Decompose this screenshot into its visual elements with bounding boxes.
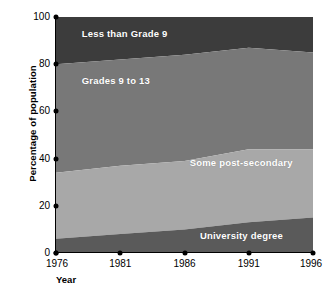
x-tick-label-1991: 1991 (238, 258, 260, 269)
x-tick-dot-1996 (311, 251, 316, 256)
x-tick-label-1981: 1981 (109, 258, 131, 269)
y-tick-label-80: 80 (20, 59, 50, 69)
y-tick-dot-100 (54, 15, 59, 20)
area-series-svg (56, 17, 313, 253)
y-tick-dot-20 (54, 203, 59, 208)
y-tick-dot-80 (54, 62, 59, 67)
x-tick-dot-1991 (246, 251, 251, 256)
stacked-area-chart: Percentage of population 0 20 40 60 80 1… (0, 0, 332, 299)
y-tick-dot-60 (54, 109, 59, 114)
x-tick-label-1986: 1986 (173, 258, 195, 269)
y-axis-tick-labels: 0 20 40 60 80 100 (18, 0, 50, 299)
y-axis-line (55, 16, 56, 254)
y-tick-label-0: 0 (20, 248, 50, 258)
series-label-grades-9-to-13: Grades 9 to 13 (82, 75, 150, 86)
plot-area (56, 17, 313, 253)
x-tick-dot-1981 (118, 251, 123, 256)
x-tick-dot-1986 (182, 251, 187, 256)
series-label-less-than-grade-9: Less than Grade 9 (82, 28, 168, 39)
series-label-university-degree: University degree (200, 230, 283, 241)
x-axis-title: Year (56, 274, 76, 285)
x-tick-dot-1976 (54, 251, 59, 256)
y-tick-label-20: 20 (20, 201, 50, 211)
series-label-some-post-secondary: Some post-secondary (190, 157, 293, 168)
x-tick-label-1996: 1996 (300, 258, 322, 269)
y-tick-label-100: 100 (20, 12, 50, 22)
y-tick-label-60: 60 (20, 106, 50, 116)
x-axis-tick-labels: 1976 1981 1986 1991 1996 (0, 258, 332, 274)
y-tick-label-40: 40 (20, 154, 50, 164)
y-tick-dot-40 (54, 156, 59, 161)
x-tick-label-1976: 1976 (46, 258, 68, 269)
